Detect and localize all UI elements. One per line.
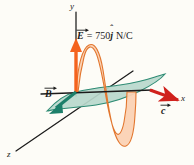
c-vector-letter: c <box>161 105 165 116</box>
equals-sign: = <box>87 30 93 41</box>
axis-label-z: z <box>7 150 11 159</box>
b-vector-letter: B <box>45 88 52 99</box>
axis-label-x: x <box>181 94 185 103</box>
e-vector-letter: E <box>77 30 84 41</box>
figure-canvas: y x z E =750jN/C B <box>0 0 194 165</box>
e-vector-symbol: E <box>77 31 84 41</box>
c-propagation-arrow <box>150 90 178 100</box>
axis-label-y: y <box>70 2 74 11</box>
b-field-label: B <box>45 89 52 99</box>
em-wave-diagram <box>0 0 194 165</box>
b-vector-symbol: B <box>45 89 52 99</box>
e-field-equation: E =750jN/C <box>77 31 133 41</box>
e-field-magnitude: 750 <box>95 30 110 41</box>
c-propagation-label: c <box>161 106 165 116</box>
c-vector-symbol: c <box>161 106 165 116</box>
j-hat-unit-vector: j <box>110 31 113 41</box>
e-field-units: N/C <box>116 30 133 41</box>
